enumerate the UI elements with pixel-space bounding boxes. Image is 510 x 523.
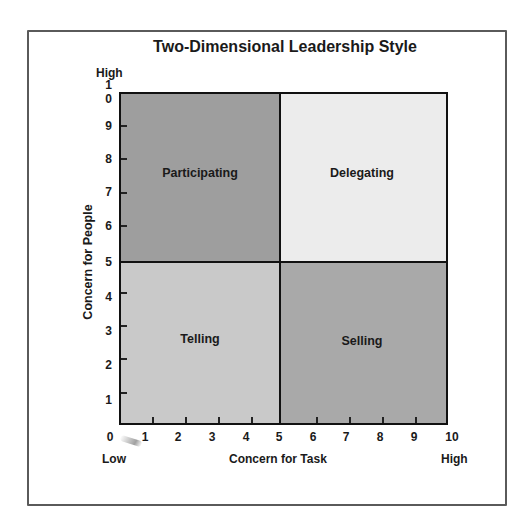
y-tick-8 (121, 158, 127, 160)
y-tick-label-10: 1 0 (98, 78, 112, 106)
x-tick-label-8: 8 (377, 430, 384, 444)
y-tick-label-2: 2 (98, 358, 112, 372)
y-tick-3 (121, 325, 127, 327)
x-tick-7 (349, 417, 351, 423)
x-tick-4 (251, 417, 253, 423)
y-tick-label-4: 4 (98, 290, 112, 304)
x-tick-label-5: 5 (276, 430, 283, 444)
quadrant-plot: Participating Delegating Telling Selling (119, 92, 448, 425)
y-tick-6 (121, 225, 127, 227)
x-axis-label: Concern for Task (229, 452, 327, 466)
quadrant-label-delegating: Delegating (330, 166, 394, 180)
y-tick-label-6: 6 (98, 219, 112, 233)
y-tick-7 (121, 192, 127, 194)
chart-title: Two-Dimensional Leadership Style (0, 38, 510, 56)
x-tick-label-2: 2 (175, 430, 182, 444)
x-tick-label-3: 3 (209, 430, 216, 444)
y-tick-label-3: 3 (98, 324, 112, 338)
x-tick-label-4: 4 (243, 430, 250, 444)
y-tick-label-1: 1 (98, 393, 112, 407)
x-low-label: Low (102, 452, 126, 466)
y-tick-9 (121, 125, 127, 127)
y-tick-2 (121, 358, 127, 360)
x-tick-2 (185, 417, 187, 423)
y-tick-1 (121, 392, 127, 394)
y-tick-4 (121, 292, 127, 294)
horizontal-divider (119, 261, 448, 263)
x-tick-label-1: 1 (142, 430, 149, 444)
y-axis-label: Concern for People (81, 204, 95, 319)
x-tick-label-10: 10 (445, 430, 458, 444)
x-tick-6 (316, 417, 318, 423)
x-tick-9 (415, 417, 417, 423)
x-tick-label-6: 6 (310, 430, 317, 444)
x-tick-label-9: 9 (411, 430, 418, 444)
y-tick-label-8: 8 (98, 152, 112, 166)
quadrant-label-selling: Selling (342, 334, 383, 348)
x-tick-label-0: 0 (107, 430, 114, 444)
y-tick-label-9: 9 (98, 119, 112, 133)
y-tick-label-7: 7 (98, 185, 112, 199)
x-tick-1 (152, 417, 154, 423)
x-tick-label-7: 7 (343, 430, 350, 444)
x-high-label: High (441, 452, 468, 466)
x-tick-8 (382, 417, 384, 423)
y-tick-label-5: 5 (98, 255, 112, 269)
x-tick-3 (218, 417, 220, 423)
quadrant-label-participating: Participating (162, 166, 238, 180)
vertical-divider (279, 92, 281, 425)
quadrant-label-telling: Telling (180, 332, 219, 346)
